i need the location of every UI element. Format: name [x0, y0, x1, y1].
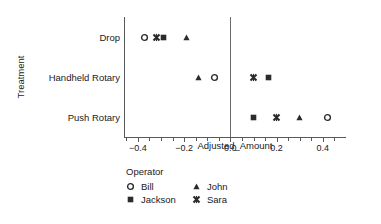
legend-entries: BillJohnJacksonSara: [126, 180, 306, 206]
x-axis-spine: [124, 137, 346, 138]
data-point-marker: [272, 113, 281, 122]
y-axis-category-label: Push Rotary: [0, 112, 120, 123]
data-point-marker: [323, 113, 332, 122]
zero-reference-line: [230, 17, 231, 137]
y-axis-title: Treatment: [14, 0, 28, 17]
data-point-marker: [140, 33, 149, 42]
data-point-marker: [295, 113, 304, 122]
data-point-marker: [210, 73, 219, 82]
x-axis-title: Adjusted_Amount: [124, 140, 346, 152]
triangle-filled-icon: [192, 182, 202, 192]
legend-title: Operator: [126, 166, 306, 178]
data-point-marker: [249, 73, 258, 82]
x-axis-title-label: Adjusted_Amount: [198, 140, 273, 151]
circle-open-icon: [126, 182, 136, 192]
legend: Operator BillJohnJacksonSara: [126, 166, 306, 206]
data-point-marker: [264, 73, 273, 82]
legend-entry-label: Jackson: [141, 193, 176, 206]
data-point-marker: [249, 113, 258, 122]
legend-entry[interactable]: Jackson: [126, 193, 192, 206]
legend-entry[interactable]: Sara: [192, 193, 258, 206]
y-axis-category-label: Drop: [0, 32, 120, 43]
x-bold-icon: [192, 195, 202, 205]
square-filled-icon: [126, 195, 136, 205]
data-point-marker: [194, 73, 203, 82]
legend-entry[interactable]: John: [192, 180, 258, 193]
legend-entry-label: Bill: [141, 180, 154, 193]
data-point-marker: [152, 33, 161, 42]
y-axis-category-label: Handheld Rotary: [0, 72, 120, 83]
scatter-chart: Treatment DropHandheld RotaryPush Rotary…: [0, 0, 381, 224]
data-point-marker: [182, 33, 191, 42]
y-axis-spine: [124, 17, 125, 137]
legend-entry[interactable]: Bill: [126, 180, 192, 193]
plot-area: −0.4−0.20.00.20.4: [124, 17, 346, 137]
legend-entry-label: John: [207, 180, 228, 193]
legend-entry-label: Sara: [207, 193, 227, 206]
